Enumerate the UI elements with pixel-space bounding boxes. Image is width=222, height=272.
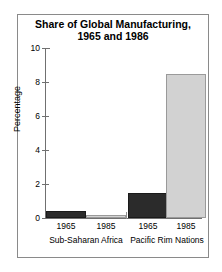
y-tick-label: 4 [20, 146, 40, 154]
bar-pacific-rim-nations-1965 [128, 193, 168, 219]
y-tick-mark [42, 150, 49, 151]
chart-title-line2: 1965 and 1986 [22, 30, 204, 42]
y-tick-mark [42, 184, 49, 185]
y-tick-mark [42, 48, 49, 49]
bar-pacific-rim-nations-1985 [166, 74, 206, 219]
y-tick-label: 8 [20, 78, 40, 86]
y-tick-label-text: 4 [20, 146, 40, 154]
y-tick-label-text: 0 [20, 214, 40, 222]
bar-sub-saharan-africa-1985 [86, 215, 126, 218]
y-tick-mark [42, 218, 49, 219]
y-tick-label-text: 6 [20, 112, 40, 120]
y-axis-label: Percentage [12, 61, 22, 157]
x-group-label: Pacific Rim Nations [107, 236, 222, 245]
y-tick-label: 0 [20, 214, 40, 222]
y-tick-label-text: 10 [20, 44, 40, 52]
y-axis-line [45, 48, 46, 219]
x-axis-line [45, 218, 202, 219]
chart-title-line1: Share of Global Manufacturing, [35, 18, 191, 30]
y-tick-mark [42, 116, 49, 117]
chart-title: Share of Global Manufacturing, 1965 and … [22, 18, 204, 42]
x-tick-year-label: 1985 [156, 222, 216, 231]
y-tick-label-text: 8 [20, 78, 40, 86]
y-tick-label: 2 [20, 180, 40, 188]
y-tick-label-text: 2 [20, 180, 40, 188]
group-separator-tick [126, 212, 127, 219]
y-tick-label: 6 [20, 112, 40, 120]
y-tick-label: 10 [20, 44, 40, 52]
chart-figure: Share of Global Manufacturing, 1965 and … [0, 0, 222, 272]
y-tick-mark [42, 82, 49, 83]
bar-sub-saharan-africa-1965 [46, 211, 86, 218]
